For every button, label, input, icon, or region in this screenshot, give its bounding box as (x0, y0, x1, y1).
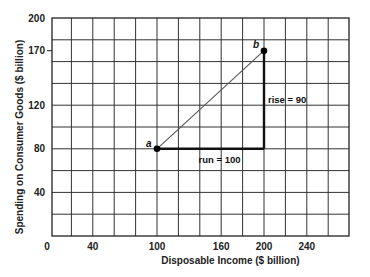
x-tick-label: 40 (87, 241, 99, 252)
y-axis-ticks: 4080120170200 (28, 13, 52, 198)
rise-annotation: rise = 90 (268, 94, 306, 105)
slope-chart: 4080120170200 040100160200240 a b run = … (0, 0, 370, 277)
y-tick-label: 120 (28, 100, 45, 111)
y-axis-title: Spending on Consumer Goods ($ billion) (14, 40, 25, 234)
y-tick-label: 80 (34, 143, 46, 154)
grid-lines (52, 18, 349, 236)
point-a-label: a (146, 138, 152, 149)
x-tick-label: 100 (149, 241, 166, 252)
y-tick-label: 170 (28, 45, 45, 56)
x-axis-ticks: 040100160200240 (44, 241, 315, 252)
x-tick-label: 200 (256, 241, 273, 252)
y-tick-label: 40 (34, 187, 46, 198)
x-tick-label: 0 (44, 241, 50, 252)
line-a-to-b (157, 51, 264, 149)
point-b-label: b (253, 39, 259, 50)
point-a (154, 146, 161, 153)
point-b (261, 47, 268, 54)
run-annotation: run = 100 (199, 154, 241, 165)
x-tick-label: 160 (213, 241, 230, 252)
x-tick-label: 240 (298, 241, 315, 252)
y-tick-label: 200 (28, 13, 45, 24)
x-axis-title: Disposable Income ($ billion) (161, 255, 299, 266)
